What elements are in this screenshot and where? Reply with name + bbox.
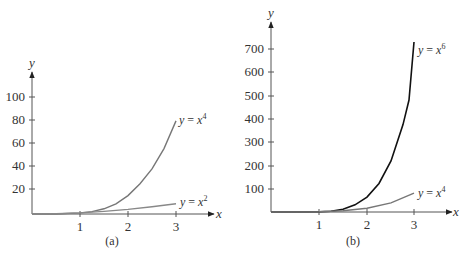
label-x4: y = x4: [178, 112, 206, 127]
curve-x4: [32, 121, 176, 214]
x-tick-label: 1: [316, 217, 323, 232]
label-x6: y = x6: [417, 42, 445, 57]
x-tick-label: 2: [125, 219, 132, 234]
figure: y x 20 40 60 80 100 1 2 3 y = x4: [0, 0, 460, 258]
caption-b: (b): [346, 234, 360, 248]
y-tick-label: 60: [12, 135, 25, 150]
y-axis-label: y: [27, 55, 35, 70]
y-tick-label: 80: [12, 112, 25, 127]
chart-b: y x 100 200 300 400 500 600 700 1 2 3: [245, 5, 460, 248]
chart-a: y x 20 40 60 80 100 1 2 3 y = x4: [6, 55, 223, 248]
x-tick-label: 1: [77, 219, 84, 234]
label-x2: y = x2: [179, 194, 207, 209]
x-axis-label: x: [215, 206, 222, 221]
y-tick-label: 700: [245, 41, 265, 56]
y-tick-label: 100: [6, 89, 26, 104]
y-tick-label: 400: [245, 111, 265, 126]
y-tick-label: 500: [245, 88, 265, 103]
x-axis-label: x: [452, 204, 459, 219]
y-tick-label: 20: [12, 181, 25, 196]
y-tick-label: 100: [245, 181, 265, 196]
label-x4: y = x4: [417, 185, 445, 200]
y-tick-label: 600: [245, 64, 265, 79]
x-tick-label: 3: [173, 219, 180, 234]
x-tick-label: 2: [364, 217, 371, 232]
x-tick-label: 3: [411, 217, 418, 232]
y-tick-label: 200: [245, 158, 265, 173]
y-tick-label: 300: [245, 134, 265, 149]
curve-x6: [271, 42, 414, 212]
y-tick-label: 40: [12, 158, 25, 173]
caption-a: (a): [105, 234, 118, 248]
y-axis-label: y: [266, 5, 274, 20]
